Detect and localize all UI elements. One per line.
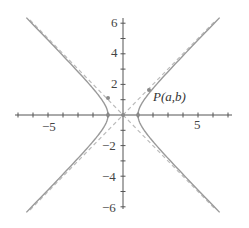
x-tick-label-5: 5: [194, 117, 201, 132]
y-tick-label-neg4: −4: [102, 169, 116, 184]
point-p: [147, 88, 151, 92]
y-tick-label-2: 2: [111, 76, 118, 91]
x-tick-label-neg5: −5: [42, 119, 56, 134]
y-tick-label-6: 6: [111, 15, 118, 30]
point-p-label: P(a,b): [152, 89, 186, 104]
points: [106, 88, 151, 117]
y-tick-label-4: 4: [111, 45, 118, 60]
vertex-left-point: [106, 113, 110, 117]
origin-point: [121, 113, 125, 117]
y-tick-label-neg6: −6: [102, 200, 116, 215]
vertex-right-point: [136, 113, 140, 117]
point-q: [106, 96, 110, 100]
y-tick-label-neg2: −2: [102, 138, 116, 153]
hyperbola-plot: −5 5 6 4 2 −2 −4 −6 P(a,b): [0, 0, 249, 228]
